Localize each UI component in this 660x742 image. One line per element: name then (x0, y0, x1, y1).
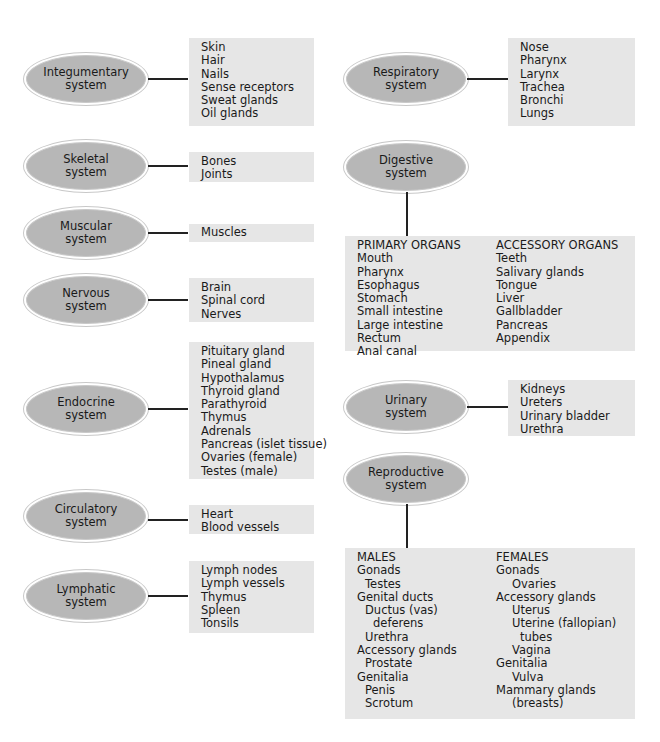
organ-item: Uterine (fallopian) (496, 617, 635, 630)
system-suffix: system (385, 479, 427, 492)
reproductive-organs-box: MALES GonadsTestesGenital ductsDuctus (v… (345, 548, 635, 719)
organ-item: Spleen (201, 604, 314, 617)
organ-item: Lymph vessels (201, 577, 314, 590)
organ-item: tubes (496, 631, 635, 644)
system-suffix: system (65, 596, 107, 609)
organ-item: deferens (357, 617, 496, 630)
system-suffix: system (65, 233, 107, 246)
organ-item: Sense receptors (201, 81, 314, 94)
system-suffix: system (65, 300, 107, 313)
primary-organs-column: PRIMARY ORGANS MouthPharynxEsophagusStom… (357, 239, 496, 359)
organ-item: Brain (201, 281, 314, 294)
endocrine-organs-box: Pituitary glandPineal glandHypothalamusT… (189, 342, 314, 479)
digestive-system-oval: Digestive system (346, 143, 466, 191)
organ-category: Gonads (357, 564, 496, 577)
organ-category: Genital ducts (357, 591, 496, 604)
organ-item: Testes (male) (201, 465, 314, 478)
connector-line (406, 192, 408, 236)
organ-item: Bones (201, 155, 314, 168)
organ-item: Parathyroid (201, 398, 314, 411)
endocrine-system-oval: Endocrine system (26, 385, 146, 433)
organ-item: Tonsils (201, 617, 314, 630)
connector-line (148, 299, 188, 301)
organ-item: Adrenals (201, 425, 314, 438)
females-column: FEMALES GonadsOvariesAccessory glandsUte… (496, 551, 635, 711)
organ-category: Mammary glands (496, 684, 635, 697)
organ-item: Nose (520, 41, 635, 54)
organ-item: Uterus (496, 604, 635, 617)
organ-item: (breasts) (496, 697, 635, 710)
lymphatic-organs-box: Lymph nodesLymph vesselsThymusSpleenTons… (189, 561, 314, 633)
organ-item: Penis (357, 684, 496, 697)
organ-item: Vagina (496, 644, 635, 657)
column-header: ACCESSORY ORGANS (496, 239, 635, 252)
respiratory-organs-box: NosePharynxLarynxTracheaBronchiLungs (508, 38, 635, 126)
connector-line (148, 78, 188, 80)
system-suffix: system (385, 79, 427, 92)
connector-line (467, 78, 508, 80)
urinary-system-oval: Urinary system (346, 383, 466, 431)
organ-item: Anal canal (357, 345, 496, 358)
organ-item: Salivary glands (496, 266, 635, 279)
organ-category: Genitalia (357, 671, 496, 684)
nervous-system-oval: Nervous system (26, 276, 146, 324)
organ-item: Hypothalamus (201, 372, 314, 385)
system-suffix: system (65, 79, 107, 92)
organ-item: Heart (201, 508, 314, 521)
circulatory-organs-box: HeartBlood vessels (189, 505, 314, 534)
circulatory-system-oval: Circulatory system (26, 492, 146, 540)
males-column: MALES GonadsTestesGenital ductsDuctus (v… (357, 551, 496, 711)
muscular-organs-box: Muscles (189, 224, 314, 242)
column-header: FEMALES (496, 551, 635, 564)
digestive-organs-box: PRIMARY ORGANS MouthPharynxEsophagusStom… (345, 236, 635, 351)
organ-item: Pineal gland (201, 358, 314, 371)
organ-item: Muscles (201, 226, 314, 239)
connector-line (148, 408, 188, 410)
organ-item: Urinary bladder (520, 410, 635, 423)
accessory-organs-column: ACCESSORY ORGANS TeethSalivary glandsTon… (496, 239, 635, 359)
organ-item: Spinal cord (201, 294, 314, 307)
organ-item: Hair (201, 54, 314, 67)
muscular-system-oval: Muscular system (26, 209, 146, 257)
organ-item: Kidneys (520, 383, 635, 396)
organ-item: Pharynx (520, 54, 635, 67)
column-header: MALES (357, 551, 496, 564)
reproductive-system-oval: Reproductive system (346, 455, 466, 503)
organ-item: Lymph nodes (201, 564, 314, 577)
organ-item: Appendix (496, 332, 635, 345)
system-suffix: system (65, 166, 107, 179)
organ-item: Thymus (201, 591, 314, 604)
organ-item: Ovaries (496, 578, 635, 591)
organ-item: Scrotum (357, 697, 496, 710)
organ-item: Ductus (vas) (357, 604, 496, 617)
organ-item: Trachea (520, 81, 635, 94)
organ-category: Accessory glands (357, 644, 496, 657)
skeletal-organs-box: BonesJoints (189, 152, 314, 182)
organ-item: Thymus (201, 411, 314, 424)
organ-item: Pituitary gland (201, 345, 314, 358)
connector-line (148, 519, 188, 521)
organ-item: Nails (201, 68, 314, 81)
organ-item: Tongue (496, 279, 635, 292)
organ-item: Thyroid gland (201, 385, 314, 398)
nervous-organs-box: BrainSpinal cordNerves (189, 278, 314, 322)
integumentary-system-oval: Integumentary system (26, 55, 146, 103)
respiratory-system-oval: Respiratory system (346, 55, 466, 103)
organ-item: Small intestine (357, 305, 496, 318)
connector-line (148, 232, 188, 234)
organ-item: Prostate (357, 657, 496, 670)
organ-item: Pharynx (357, 266, 496, 279)
organ-item: Urethra (520, 423, 635, 436)
lymphatic-system-oval: Lymphatic system (26, 572, 146, 620)
connector-line (148, 165, 188, 167)
organ-item: Oil glands (201, 107, 314, 120)
organ-item: Blood vessels (201, 521, 314, 534)
organ-item: Vulva (496, 671, 635, 684)
system-suffix: system (65, 409, 107, 422)
organ-item: Gallbladder (496, 305, 635, 318)
organ-item: Pancreas (496, 319, 635, 332)
column-header: PRIMARY ORGANS (357, 239, 496, 252)
organ-item: Large intestine (357, 319, 496, 332)
connector-line (406, 504, 408, 548)
organ-item: Esophagus (357, 279, 496, 292)
